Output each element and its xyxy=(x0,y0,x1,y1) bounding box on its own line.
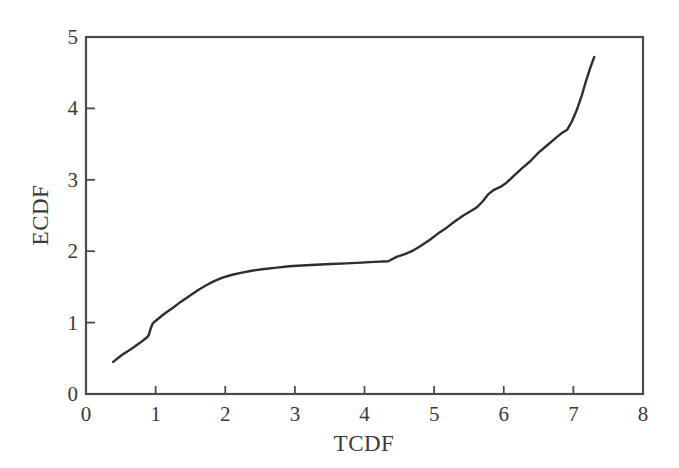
x-tick-label: 8 xyxy=(638,404,649,425)
x-tick-label: 5 xyxy=(429,404,440,425)
y-tick-label: 0 xyxy=(60,384,78,405)
x-axis-title: TCDF xyxy=(334,432,395,455)
ecdf-vs-tcdf-line-chart xyxy=(0,0,679,468)
x-tick-label: 7 xyxy=(568,404,579,425)
y-tick-label: 4 xyxy=(60,98,78,119)
y-tick-label: 3 xyxy=(60,169,78,190)
x-tick-label: 1 xyxy=(150,404,161,425)
plot-frame-box xyxy=(86,37,643,394)
y-tick-label: 5 xyxy=(60,27,78,48)
x-tick-label: 0 xyxy=(81,404,92,425)
y-tick-label: 2 xyxy=(60,241,78,262)
x-tick-label: 2 xyxy=(220,404,231,425)
chart-figure: 012345678 012345 TCDF ECDF xyxy=(0,0,679,468)
x-tick-label: 3 xyxy=(290,404,301,425)
y-axis-tick-marks xyxy=(86,108,95,322)
y-tick-label: 1 xyxy=(60,312,78,333)
x-axis-tick-marks xyxy=(156,386,574,394)
x-tick-label: 4 xyxy=(359,404,370,425)
ecdf-curve xyxy=(113,57,594,362)
y-axis-title: ECDF xyxy=(29,185,52,246)
x-tick-label: 6 xyxy=(499,404,510,425)
